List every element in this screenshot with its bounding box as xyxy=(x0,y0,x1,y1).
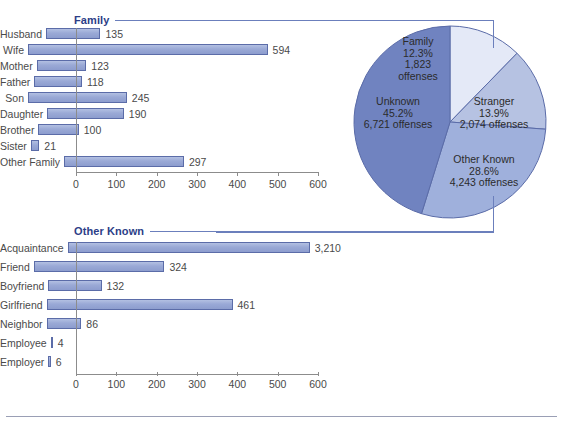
bar[interactable] xyxy=(48,280,101,291)
bar-track: 132 xyxy=(48,278,350,294)
bar-track: 324 xyxy=(34,259,336,275)
bar-track: 6 xyxy=(48,354,350,370)
x-tick-label: 200 xyxy=(137,178,177,190)
bar[interactable] xyxy=(64,156,184,167)
bar-row: Sister21 xyxy=(0,138,330,154)
pie-label-line: offenses xyxy=(382,71,454,83)
bar[interactable] xyxy=(46,28,100,39)
x-tick-label: 100 xyxy=(96,178,136,190)
bar-value-label: 4 xyxy=(58,335,64,351)
bar-value-label: 132 xyxy=(107,278,125,294)
x-tick xyxy=(278,172,279,176)
bar[interactable] xyxy=(38,124,78,135)
bar-category-label: Brother xyxy=(0,124,38,136)
x-tick-label: 500 xyxy=(258,178,298,190)
bar-track: 86 xyxy=(47,316,349,332)
other-known-y-axis xyxy=(76,242,77,374)
bar-value-label: 118 xyxy=(87,74,104,90)
bar[interactable] xyxy=(34,76,82,87)
bar-value-label: 190 xyxy=(129,106,147,122)
section-title-other-known: Other Known xyxy=(74,225,144,237)
bar[interactable] xyxy=(47,299,233,310)
bar[interactable] xyxy=(28,44,268,55)
bar-track: 190 xyxy=(47,106,349,122)
x-tick xyxy=(76,372,77,376)
connector-family-horizontal xyxy=(430,20,494,21)
bar[interactable] xyxy=(47,108,124,119)
pie-label-line: Other Known xyxy=(426,154,542,166)
bar-row: Neighbor86 xyxy=(0,316,330,332)
bar-row: Daughter190 xyxy=(0,106,330,122)
connector-family-vertical xyxy=(493,20,494,48)
x-tick-label: 300 xyxy=(177,178,217,190)
family-y-axis xyxy=(76,28,77,172)
bar[interactable] xyxy=(48,356,50,367)
bar-value-label: 21 xyxy=(44,138,56,154)
bar-value-label: 100 xyxy=(84,122,102,138)
pie-slice-label: Family12.3%1,823offenses xyxy=(382,36,454,82)
bar-track: 123 xyxy=(37,58,339,74)
bar-category-label: Friend xyxy=(0,261,34,273)
bar[interactable] xyxy=(28,92,127,103)
bar-chart-other-known: Acquaintance3,210Friend324Boyfriend132Gi… xyxy=(0,240,330,410)
bar-category-label: Acquaintance xyxy=(0,242,68,254)
bar-value-label: 3,210 xyxy=(315,240,341,256)
bar-category-label: Husband xyxy=(0,28,46,40)
bar-row: Acquaintance3,210 xyxy=(0,240,330,256)
bar-row: Boyfriend132 xyxy=(0,278,330,294)
bar-row: Wife594 xyxy=(0,42,330,58)
bar-value-label: 594 xyxy=(273,42,291,58)
bar-chart-family: Husband135Wife594Mother123Father118Son24… xyxy=(0,26,330,191)
bar-value-label: 6 xyxy=(56,354,62,370)
pie-label-line: 1,823 xyxy=(382,59,454,71)
bar-category-label: Employee xyxy=(0,337,51,349)
bar-row: Employee4 xyxy=(0,335,330,351)
bar-row: Son245 xyxy=(0,90,330,106)
x-tick xyxy=(197,172,198,176)
bar[interactable] xyxy=(51,337,53,348)
x-tick xyxy=(237,372,238,376)
x-tick-label: 200 xyxy=(137,378,177,390)
bar-value-label: 86 xyxy=(86,316,98,332)
bar-row: Other Family297 xyxy=(0,154,330,170)
bar[interactable] xyxy=(68,242,310,253)
pie-slice-label: Other Known28.6%4,243 offenses xyxy=(426,154,542,189)
pie-label-line: 2,074 offenses xyxy=(440,119,548,131)
bar-value-label: 135 xyxy=(105,26,123,42)
bar[interactable] xyxy=(34,261,165,272)
bar-row: Brother100 xyxy=(0,122,330,138)
x-tick-label: 500 xyxy=(258,378,298,390)
x-tick xyxy=(116,172,117,176)
x-tick xyxy=(197,372,198,376)
bar-category-label: Other Family xyxy=(0,156,64,168)
bar-category-label: Sister xyxy=(0,140,31,152)
bar-category-label: Mother xyxy=(0,60,37,72)
bar-value-label: 297 xyxy=(189,154,207,170)
pie-label-line: Unknown xyxy=(340,96,456,108)
pie-slice-label: Unknown45.2%6,721 offenses xyxy=(340,96,456,131)
bar-category-label: Boyfriend xyxy=(0,280,48,292)
pie-label-line: 4,243 offenses xyxy=(426,177,542,189)
x-tick-label: 100 xyxy=(96,378,136,390)
x-tick xyxy=(278,372,279,376)
footer-divider xyxy=(6,416,557,417)
section-header-other-known: Other Known xyxy=(74,225,494,237)
x-tick xyxy=(116,372,117,376)
x-tick-label: 0 xyxy=(56,178,96,190)
bar-track: 100 xyxy=(38,122,340,138)
bar-category-label: Wife xyxy=(0,44,28,56)
bar-track: 461 xyxy=(47,297,349,313)
bar-value-label: 123 xyxy=(91,58,109,74)
bar[interactable] xyxy=(31,140,39,151)
bar-row: Father118 xyxy=(0,74,330,90)
bar-category-label: Son xyxy=(0,92,28,104)
bar-track: 245 xyxy=(28,90,330,106)
x-tick-label: 300 xyxy=(177,378,217,390)
x-tick xyxy=(157,172,158,176)
x-tick-label: 600 xyxy=(298,178,338,190)
bar-value-label: 324 xyxy=(169,259,187,275)
pie-slice-label: Stranger13.9%2,074 offenses xyxy=(440,96,548,131)
x-tick xyxy=(318,372,319,376)
bar-track: 4 xyxy=(51,335,353,351)
bar[interactable] xyxy=(37,60,87,71)
